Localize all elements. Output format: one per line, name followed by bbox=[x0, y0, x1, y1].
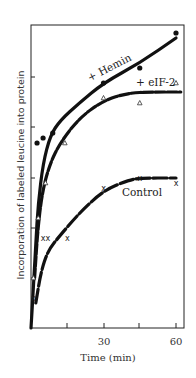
series-label-control: Control bbox=[122, 186, 162, 198]
data-point-x: x bbox=[31, 294, 36, 303]
curve-eif-2 bbox=[35, 92, 181, 278]
data-point-x: x bbox=[65, 234, 70, 243]
data-point-circle bbox=[50, 130, 55, 135]
data-point-x: x bbox=[137, 174, 142, 183]
data-point-x: x bbox=[101, 184, 106, 193]
x-ticks bbox=[67, 323, 176, 328]
data-point-triangle bbox=[101, 96, 106, 100]
data-point-x: x bbox=[174, 179, 179, 188]
y-axis-label: Incorporation of labeled leucine into pr… bbox=[15, 71, 26, 280]
data-point-circle bbox=[101, 80, 106, 85]
data-point-x: x bbox=[46, 234, 51, 243]
data-point-circle bbox=[40, 135, 45, 140]
x-tick-label-30: 30 bbox=[98, 336, 111, 347]
data-point-circle bbox=[34, 140, 39, 145]
data-point-triangle bbox=[137, 101, 142, 105]
x-tick-label-60: 60 bbox=[170, 336, 183, 347]
data-point-circle bbox=[173, 30, 178, 35]
chart-canvas: xxxxxxx bbox=[0, 0, 196, 378]
data-point-circle bbox=[137, 65, 142, 70]
series-label-eif2: + eIF-2 bbox=[136, 76, 176, 88]
x-axis-label: Time (min) bbox=[80, 352, 135, 363]
